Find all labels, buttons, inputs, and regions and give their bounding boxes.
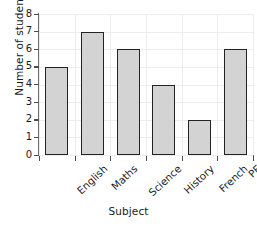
- x-tick-mark: [146, 156, 147, 161]
- bar: [117, 49, 140, 155]
- x-tick-mark: [75, 156, 76, 161]
- x-tick-mark: [253, 156, 254, 161]
- y-tick-label: 8: [18, 9, 32, 19]
- x-category-label: Maths: [109, 163, 139, 192]
- plot-area: [39, 14, 253, 155]
- x-tick-mark: [110, 156, 111, 161]
- bar: [81, 32, 104, 155]
- y-tick-label: 6: [18, 44, 32, 54]
- x-category-label: Science: [147, 163, 184, 198]
- y-tick-mark: [34, 14, 39, 15]
- y-tick-label: 3: [18, 97, 32, 107]
- y-tick-label: 5: [18, 61, 32, 71]
- y-tick-mark: [34, 31, 39, 32]
- y-tick-mark: [34, 119, 39, 120]
- gridline-vertical: [39, 14, 40, 155]
- x-category-label: French: [217, 163, 250, 194]
- bar: [188, 120, 211, 155]
- bar-chart: Number of students 012345678 EnglishMath…: [0, 0, 257, 226]
- y-tick-label: 4: [18, 79, 32, 89]
- bar: [224, 49, 247, 155]
- x-tick-mark: [182, 156, 183, 161]
- y-tick-label: 2: [18, 114, 32, 124]
- bar: [152, 85, 175, 156]
- y-tick-label: 0: [18, 150, 32, 160]
- gridline-vertical: [75, 14, 76, 155]
- x-axis-title: Subject: [0, 205, 257, 217]
- x-tick-mark: [39, 156, 40, 161]
- y-tick-mark: [34, 102, 39, 103]
- gridline-vertical: [110, 14, 111, 155]
- gridline-vertical: [182, 14, 183, 155]
- x-tick-mark: [217, 156, 218, 161]
- x-category-label: PE: [247, 163, 257, 180]
- gridline-vertical: [253, 14, 254, 155]
- y-tick-mark: [34, 137, 39, 138]
- gridline-vertical: [146, 14, 147, 155]
- gridline-vertical: [217, 14, 218, 155]
- x-category-label: English: [75, 163, 110, 196]
- y-tick-mark: [34, 49, 39, 50]
- y-tick-mark: [34, 66, 39, 67]
- x-category-label: History: [182, 163, 216, 196]
- y-tick-label: 1: [18, 132, 32, 142]
- bar: [45, 67, 68, 155]
- y-tick-mark: [34, 84, 39, 85]
- y-tick-label: 7: [18, 26, 32, 36]
